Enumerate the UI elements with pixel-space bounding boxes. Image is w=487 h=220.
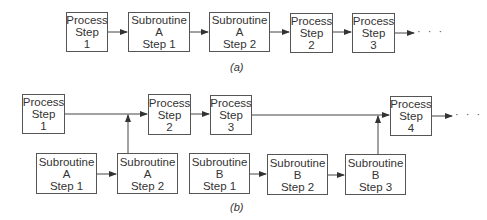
box-line: Process (390, 98, 432, 110)
box-line: 3 (370, 39, 376, 51)
box-line: Subroutine (131, 14, 187, 26)
box-line: Step 2 (131, 180, 164, 192)
box-line: B (294, 169, 302, 181)
caption-b: (b) (230, 201, 243, 213)
box-line: Step (158, 109, 182, 121)
subroutine-a-step-2-box: Subroutine A Step 2 (209, 12, 270, 52)
subroutine-a-step-2-box: Subroutine A Step 2 (117, 153, 178, 194)
continuation-ellipsis: · · · (455, 108, 482, 120)
box-line: Process (66, 14, 108, 26)
box-line: Step (399, 110, 423, 122)
box-line: Process (149, 97, 191, 109)
box-line: Step 3 (359, 181, 392, 193)
box-line: Process (353, 15, 395, 27)
box-line: Step (362, 27, 386, 39)
box-line: B (372, 169, 380, 181)
box-line: 3 (228, 121, 234, 133)
box-line: 1 (84, 38, 90, 50)
box-line: Subroutine (120, 156, 176, 168)
box-line: 2 (166, 121, 172, 133)
subroutine-a-step-1-box: Subroutine A Step 1 (128, 12, 190, 52)
box-line: 2 (308, 39, 314, 51)
process-step-1-box: Process Step 1 (22, 94, 65, 134)
box-line: A (155, 26, 163, 38)
box-line: Step 1 (203, 180, 236, 192)
process-step-2-box: Process Step 2 (290, 13, 333, 53)
box-line: Subroutine (39, 156, 95, 168)
box-line: Step 2 (281, 181, 314, 193)
box-line: B (216, 168, 224, 180)
box-line: Process (291, 15, 333, 27)
box-line: Process (23, 96, 65, 108)
subroutine-b-step-1-box: Subroutine B Step 1 (189, 153, 250, 194)
box-line: Step 2 (223, 38, 256, 50)
box-line: Step (219, 109, 243, 121)
box-line: Process (210, 97, 252, 109)
box-line: A (144, 168, 152, 180)
caption-a: (a) (230, 61, 243, 73)
box-line: Subroutine (212, 14, 268, 26)
box-line: Step (75, 26, 99, 38)
subroutine-a-step-1-box: Subroutine A Step 1 (36, 153, 97, 194)
box-line: Subroutine (270, 157, 326, 169)
process-step-3-box: Process Step 3 (210, 95, 252, 135)
box-line: 1 (40, 120, 46, 132)
box-line: Step (32, 108, 56, 120)
box-line: Step 1 (142, 38, 175, 50)
box-line: Subroutine (348, 157, 404, 169)
box-line: A (63, 168, 71, 180)
box-line: Step 1 (50, 180, 83, 192)
subroutine-b-step-2-box: Subroutine B Step 2 (267, 154, 328, 195)
box-line: A (236, 26, 244, 38)
box-line: 4 (408, 122, 414, 134)
process-step-1-box: Process Step 1 (66, 12, 108, 52)
box-line: Step (300, 27, 324, 39)
process-step-3-box: Process Step 3 (352, 13, 395, 53)
box-line: Subroutine (192, 156, 248, 168)
continuation-ellipsis: · · · (417, 25, 444, 37)
process-step-2-box: Process Step 2 (148, 94, 191, 135)
subroutine-b-step-3-box: Subroutine B Step 3 (345, 154, 406, 195)
process-step-4-box: Process Step 4 (390, 96, 432, 136)
